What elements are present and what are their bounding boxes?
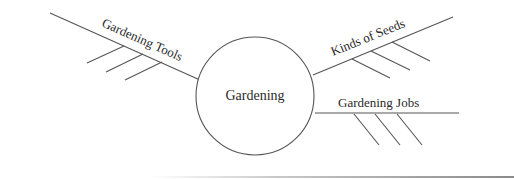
center-label: Gardening xyxy=(225,88,284,103)
detail-line xyxy=(106,54,143,72)
detail-line xyxy=(87,46,124,63)
detail-line xyxy=(392,42,430,61)
bottom-rule xyxy=(150,176,514,178)
detail-line xyxy=(352,59,390,78)
branch-gardening-jobs: Gardening Jobs xyxy=(315,95,459,145)
branch-gardening-tools: Gardening Tools xyxy=(50,13,200,80)
detail-line xyxy=(354,114,379,145)
detail-line xyxy=(397,114,422,145)
detail-line xyxy=(371,51,410,70)
detail-line xyxy=(125,62,162,80)
branch-label-gardening-jobs: Gardening Jobs xyxy=(338,95,419,110)
branch-kinds-of-seeds: Kinds of Seeds xyxy=(313,15,453,78)
spider-map-diagram: Gardening Tools Kinds of Seeds Gardening… xyxy=(0,0,514,179)
branch-label-gardening-tools: Gardening Tools xyxy=(100,15,185,64)
detail-line xyxy=(375,114,400,145)
center-node: Gardening xyxy=(196,37,314,155)
